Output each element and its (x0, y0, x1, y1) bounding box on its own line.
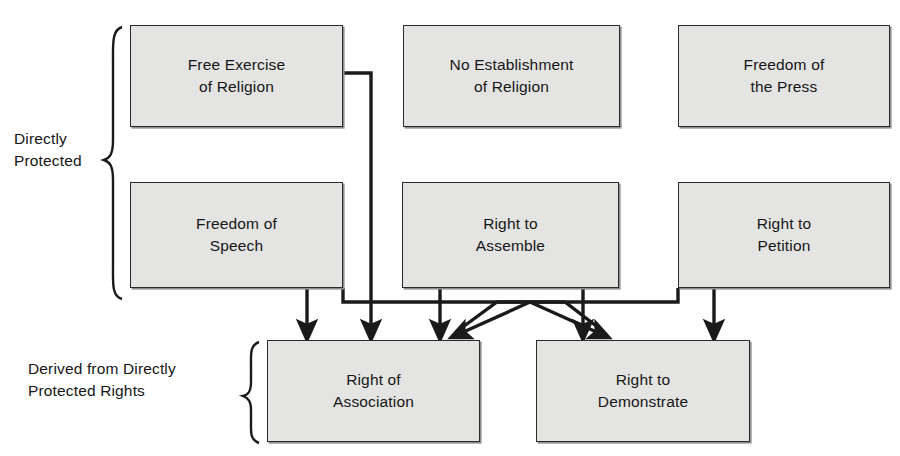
node-freedom-of-speech[interactable]: Freedom of Speech (130, 182, 343, 288)
brace-derived-rights (243, 342, 259, 443)
node-right-of-association[interactable]: Right of Association (267, 340, 480, 442)
node-label: No Establishment of Religion (444, 54, 580, 98)
edge-right-petition-to-association (456, 288, 678, 332)
node-free-exercise-of-religion[interactable]: Free Exercise of Religion (130, 25, 343, 127)
node-freedom-of-the-press[interactable]: Freedom of the Press (678, 25, 890, 127)
node-no-establishment-of-religion[interactable]: No Establishment of Religion (403, 25, 620, 127)
node-right-to-assemble[interactable]: Right to Assemble (402, 182, 619, 288)
edge-cross-right-to-left (459, 302, 530, 334)
node-label: Right of Association (327, 369, 420, 413)
node-label: Freedom of Speech (190, 213, 283, 257)
node-right-to-demonstrate[interactable]: Right to Demonstrate (536, 340, 750, 442)
group-label-directly-protected: Directly Protected (14, 128, 122, 172)
edge-freedom-speech-bus (343, 288, 604, 332)
node-label: Right to Petition (751, 213, 818, 257)
edge-free-exercise-to-association (343, 73, 371, 331)
node-label: Right to Assemble (470, 213, 551, 257)
node-label: Right to Demonstrate (592, 369, 694, 413)
group-label-derived-rights: Derived from Directly Protected Rights (28, 358, 242, 402)
node-label: Free Exercise of Religion (182, 54, 292, 98)
node-label: Freedom of the Press (738, 54, 831, 98)
node-right-to-petition[interactable]: Right to Petition (678, 182, 890, 288)
edge-cross-left-to-right (530, 302, 601, 334)
diagram-canvas: Directly Protected Derived from Directly… (0, 0, 900, 456)
